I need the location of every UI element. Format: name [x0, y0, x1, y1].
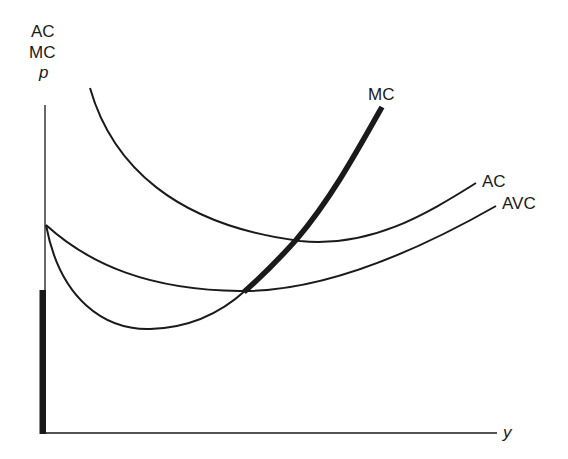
y-axis-thick-segment — [40, 290, 47, 434]
mc-curve-thick — [244, 107, 382, 292]
avc-curve — [46, 206, 496, 291]
y-axis-label-p: p — [39, 64, 48, 81]
x-axis-label-y: y — [503, 424, 512, 441]
mc-curve-label: MC — [368, 86, 394, 103]
avc-curve-label: AVC — [502, 195, 536, 212]
ac-curve-label: AC — [482, 173, 506, 190]
y-axis-label-mc: MC — [29, 44, 55, 61]
y-axis-label-ac: AC — [31, 23, 55, 40]
mc-curve-thin — [46, 225, 246, 329]
ac-curve — [90, 88, 476, 242]
cost-curves-diagram — [0, 0, 568, 459]
